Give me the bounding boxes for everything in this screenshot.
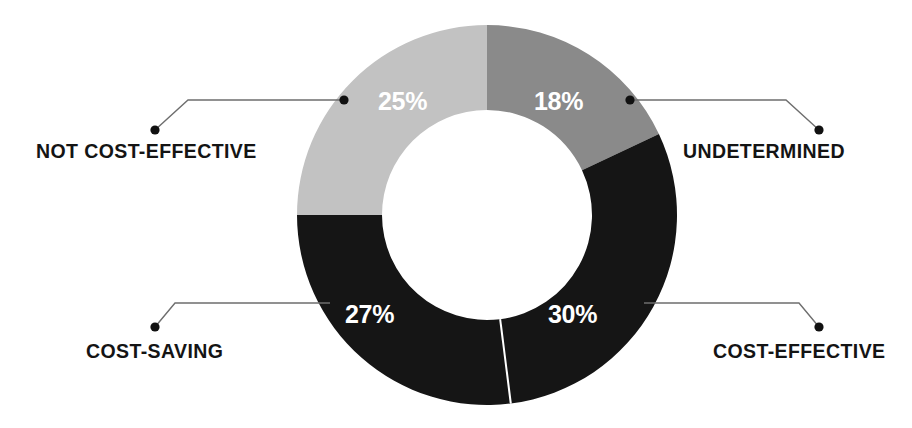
donut-chart-figure: 25% 18% 27% 30% NOT COST-EFFECTIVE UNDET… <box>0 0 912 428</box>
connector-dot-label-not-cost-effective <box>150 125 159 134</box>
slice-cost-effective[interactable] <box>500 134 677 403</box>
category-label-undetermined: UNDETERMINED <box>683 142 845 162</box>
connector-cost-effective <box>644 303 824 332</box>
connector-cost-saving <box>150 303 330 332</box>
connector-line-cost-effective <box>644 303 819 327</box>
category-label-not-cost-effective: NOT COST-EFFECTIVE <box>36 142 257 162</box>
slice-not-cost-effective[interactable] <box>297 25 487 215</box>
connector-dot-label-undetermined <box>814 125 823 134</box>
category-label-cost-effective: COST-EFFECTIVE <box>713 342 885 362</box>
donut-chart-canvas: 25% 18% 27% 30% <box>0 0 912 428</box>
slice-value-not-cost-effective: 25% <box>378 87 427 115</box>
category-label-cost-saving: COST-SAVING <box>86 342 223 362</box>
connector-dot-label-cost-effective <box>814 322 823 331</box>
connector-dot-slice-undetermined <box>625 95 634 104</box>
connector-line-cost-saving <box>155 303 330 327</box>
slice-value-cost-effective: 30% <box>548 300 597 328</box>
connector-dot-slice-not-cost-effective <box>339 95 348 104</box>
donut-ring <box>297 25 677 405</box>
callout-connectors <box>150 95 823 331</box>
connector-dot-label-cost-saving <box>150 322 159 331</box>
slice-value-cost-saving: 27% <box>345 300 394 328</box>
slice-value-undetermined: 18% <box>534 87 583 115</box>
connector-line-not-cost-effective <box>155 100 344 130</box>
connector-line-undetermined <box>630 100 819 130</box>
slice-cost-saving[interactable] <box>297 215 511 405</box>
